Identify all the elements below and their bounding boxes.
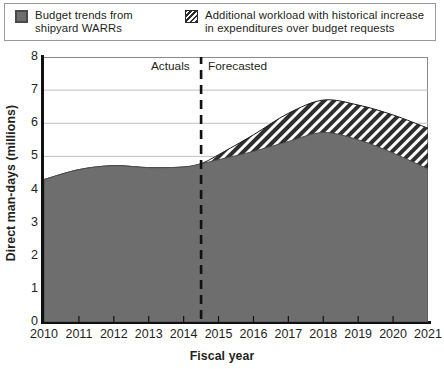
- y-axis-title: Direct man-days (millions): [4, 58, 18, 308]
- legend-swatch-diagonal-hatch-square: [185, 10, 198, 23]
- legend-line-2: shipyard WARRs: [35, 22, 122, 34]
- plot-area: [44, 57, 428, 322]
- annotation-actuals: Actuals: [151, 59, 190, 73]
- chart-legend: Budget trends from shipyard WARRs Additi…: [4, 3, 436, 41]
- legend-item-budget-trends: Budget trends from shipyard WARRs: [15, 9, 183, 35]
- legend-item-additional-workload: Additional workload with historical incr…: [185, 9, 435, 35]
- annotation-forecasted: Forecasted: [208, 59, 267, 73]
- x-axis-title: Fiscal year: [0, 349, 444, 363]
- x-axis-tick-labels: 2010201120122013201420152016201720182019…: [0, 327, 444, 345]
- legend-item-budget-trends-text: Budget trends from shipyard WARRs: [35, 9, 133, 35]
- legend-item-additional-workload-text: Additional workload with historical incr…: [205, 9, 424, 35]
- legend-line-1: Additional workload with historical incr…: [205, 9, 424, 21]
- legend-line-2: in expenditures over budget requests: [205, 22, 395, 34]
- area-series-budget-trends: [44, 133, 428, 322]
- x-axis-tick-label: 2021: [406, 327, 444, 341]
- legend-line-1: Budget trends from: [35, 9, 133, 21]
- area-chart-svg: [44, 57, 428, 322]
- y-axis-tick-label: 0: [8, 314, 38, 328]
